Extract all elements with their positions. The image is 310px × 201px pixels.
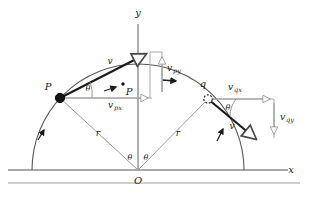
point-q-marker (204, 95, 212, 103)
angle-arc-at-q (230, 99, 236, 116)
vector-vpx-label-sub: px (114, 104, 122, 112)
angle-label-at-p: θ (86, 84, 91, 93)
radii-group (60, 98, 208, 170)
point-p-marker (55, 93, 64, 102)
point-p-label: P (44, 81, 52, 92)
angle-label-at-q: θ (226, 103, 231, 112)
angle-label-origin-left: θ (128, 153, 133, 162)
vector-vqx-label-base: v (228, 82, 233, 92)
vector-vpy-label: v py (167, 63, 181, 75)
arc-direction-marker-right (217, 129, 223, 141)
point-p-arc-label: P (125, 86, 133, 97)
point-p-arc-marker (121, 82, 124, 85)
arc-direction-marker-apex-left (104, 87, 116, 91)
vector-vqy-label: v qy (280, 112, 294, 124)
origin-label: O (134, 175, 142, 186)
arc-direction-marker-apex-right (162, 80, 176, 81)
radius-label-left: r (96, 128, 101, 138)
vector-v-at-p-label: v (107, 56, 112, 66)
diagram-canvas: x y r r θ θ O (0, 0, 310, 201)
vector-vqy-label-base: v (280, 112, 285, 122)
y-axis-label: y (134, 7, 141, 18)
x-axis (8, 170, 300, 183)
angle-label-origin-right: θ (144, 153, 149, 162)
vector-vqx-label-sub: qx (234, 86, 242, 94)
vector-v-at-p-arrow (60, 54, 146, 98)
vector-vpy-label-base: v (167, 63, 172, 73)
vector-vpx-label-base: v (108, 100, 113, 110)
vector-v-at-q-label: v (229, 121, 234, 131)
point-q-label: q (200, 78, 206, 89)
radius-label-right: r (176, 128, 181, 138)
vector-vpy-label-sub: py (173, 67, 181, 75)
q-component-guides (208, 99, 274, 138)
vector-vqy-label-sub: qy (286, 116, 294, 124)
physics-diagram-figure: x y r r θ θ O (0, 0, 310, 201)
vector-vpx-label: v px (108, 100, 122, 112)
vector-vqx-label: v qx (228, 82, 242, 94)
x-axis-label: x (288, 164, 294, 175)
radius-line-to-q (138, 99, 208, 170)
